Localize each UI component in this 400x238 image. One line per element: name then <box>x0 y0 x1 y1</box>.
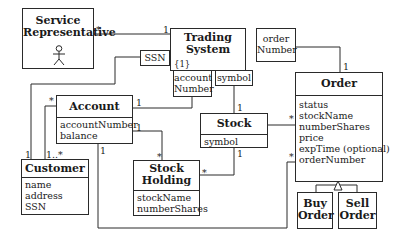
multiplicity: 1 <box>100 146 106 156</box>
qualifier-order-number: order Number <box>256 28 296 62</box>
multiplicity: 1 <box>163 25 169 35</box>
multiplicity: 1 <box>136 98 142 108</box>
multiplicity: 1 <box>25 150 31 160</box>
multiplicity: 1 <box>136 123 142 133</box>
class-title: Service Representative <box>23 15 93 39</box>
multiplicity: * <box>49 96 54 106</box>
multiplicity: * <box>289 152 294 162</box>
class-sell-order: Sell Order <box>338 192 377 229</box>
qualifier-ssn: SSN <box>140 50 170 66</box>
attribute-list: stockName numberShares <box>134 190 199 215</box>
class-stock: Stock symbol <box>200 113 268 148</box>
class-service-representative: Service Representative <box>22 8 94 69</box>
class-trading-system: Trading System {1} <box>170 28 246 71</box>
class-buy-order: Buy Order <box>297 192 333 229</box>
class-customer: Customer name address SSN <box>21 159 89 215</box>
multiplicity: 1 <box>237 103 243 113</box>
multiplicity: * <box>202 168 207 178</box>
multiplicity: 1 <box>237 149 243 159</box>
class-account: Account accountNumber balance <box>56 95 133 144</box>
multiplicity: 1 <box>343 62 349 72</box>
actor-icon <box>51 45 67 67</box>
attribute-list: accountNumber balance <box>57 117 132 142</box>
qualifier-symbol: symbol <box>215 70 253 86</box>
multiplicity-constraint: {1} <box>174 60 190 69</box>
class-stock-holding: Stock Holding stockName numberShares <box>133 160 200 216</box>
attribute-list: symbol <box>201 134 267 148</box>
multiplicity: 1..* <box>46 150 63 160</box>
class-order: Order status stockName numberShares pric… <box>295 72 383 182</box>
multiplicity: * <box>96 25 101 35</box>
qualifier-account-number: account Number <box>173 70 212 97</box>
multiplicity: * <box>289 114 294 124</box>
attribute-list: name address SSN <box>22 177 88 213</box>
multiplicity: * <box>157 152 162 162</box>
attribute-list: status stockName numberShares price expT… <box>296 95 382 166</box>
